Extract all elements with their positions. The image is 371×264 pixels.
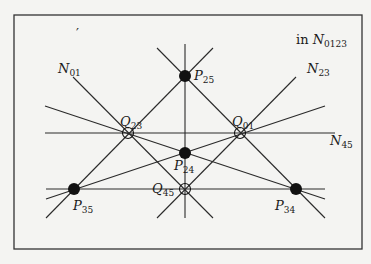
label-q01: Q01 bbox=[232, 114, 254, 131]
diagram-frame bbox=[14, 15, 362, 249]
label-line-n01: N01 bbox=[57, 61, 81, 78]
caption-label: in N0123 bbox=[296, 32, 347, 49]
label-p25: P25 bbox=[193, 68, 214, 85]
point-p35-dot bbox=[68, 183, 80, 195]
label-line-n23: N23 bbox=[306, 61, 330, 78]
configuration-diagram: P25P24P35P34Q23Q01Q45N01N23N45 in N0123 … bbox=[0, 0, 371, 264]
label-p24: P24 bbox=[173, 158, 194, 175]
line-n01 bbox=[73, 77, 213, 218]
label-q23: Q23 bbox=[120, 114, 142, 131]
label-p34: P34 bbox=[274, 198, 295, 215]
label-line-n45: N45 bbox=[329, 133, 353, 150]
line-n23 bbox=[157, 77, 296, 218]
label-q45: Q45 bbox=[152, 181, 174, 198]
point-p25-dot bbox=[179, 70, 191, 82]
stray-mark: ′ bbox=[76, 26, 79, 41]
point-p34-dot bbox=[290, 183, 302, 195]
labels-group: P25P24P35P34Q23Q01Q45N01N23N45 bbox=[57, 61, 353, 215]
label-p35: P35 bbox=[72, 198, 93, 215]
